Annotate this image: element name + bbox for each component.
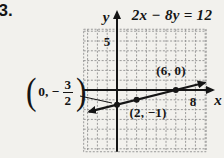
x-axis-label: x [214, 93, 222, 108]
point-label-2-neg1: (2, −1) [130, 106, 167, 119]
y-tick-label-5: 5 [104, 35, 111, 48]
close-paren: ) [76, 76, 86, 107]
plotted-point [114, 102, 120, 108]
open-paren: ( [26, 76, 36, 107]
y-axis-label: y [103, 10, 110, 25]
point-label-0-neg3-2: ( 0, − 3 2 ) [25, 71, 87, 113]
x-tick-label-8: 8 [190, 95, 197, 108]
fraction-numerator: 3 [63, 78, 74, 92]
plotted-point [173, 87, 179, 93]
point-label-6-0: (6, 0) [156, 64, 185, 77]
fraction-denominator: 2 [63, 92, 74, 107]
equation-label: 2x − 8y = 12 [132, 8, 212, 23]
fraction-three-halves: 3 2 [63, 78, 74, 107]
fraction-label-prefix: 0, − [38, 84, 60, 100]
plotted-point [134, 97, 140, 103]
